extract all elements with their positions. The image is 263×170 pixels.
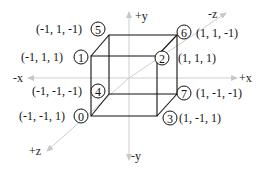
vertex-1-index: 1 [78, 51, 84, 65]
vertex-5: 5 (-1, 1, -1) [36, 22, 105, 37]
axis-label-neg-x: -x [13, 71, 23, 85]
vertex-2-coord: (1, 1, 1) [178, 51, 216, 65]
axis-label-neg-z: -z [208, 7, 217, 21]
vertex-5-index: 5 [95, 23, 101, 37]
vertex-1-coord: (-1, 1, 1) [21, 50, 63, 64]
vertex-3-index: 3 [167, 112, 173, 126]
vertex-7: 7 (1, -1, -1) [177, 86, 242, 101]
vertex-7-coord: (1, -1, -1) [196, 86, 242, 100]
vertex-4-coord: (-1, -1, -1) [32, 84, 82, 98]
vertex-3: 3 (1, -1, 1) [163, 111, 221, 126]
cube-back-face [109, 35, 177, 94]
vertex-2: 2 (1, 1, 1) [155, 51, 216, 66]
vertex-5-coord: (-1, 1, -1) [36, 22, 82, 36]
vertex-6-index: 6 [181, 26, 187, 40]
vertex-0-index: 0 [78, 110, 84, 124]
cube [91, 35, 177, 116]
vertex-2-index: 2 [159, 52, 165, 66]
vertex-7-index: 7 [181, 87, 187, 101]
vertex-3-coord: (1, -1, 1) [179, 111, 221, 125]
axis-label-neg-y: -y [131, 149, 141, 163]
vertex-6: 6 (1, 1, -1) [177, 25, 238, 40]
axis-label-pos-y: +y [135, 9, 148, 23]
vertex-4-index: 4 [95, 85, 101, 99]
axis-label-pos-x: +x [239, 71, 252, 85]
edge-1-5 [91, 35, 109, 56]
axis-label-pos-z: +z [29, 144, 41, 158]
vertex-0-coord: (-1, -1, 1) [19, 109, 65, 123]
vertex-0: 0 (-1, -1, 1) [19, 109, 88, 124]
vertex-1: 1 (-1, 1, 1) [21, 50, 88, 65]
cube-diagram: +y -y +x -x -z +z 5 (-1, 1, -1) 1 (-1, 1… [0, 0, 263, 170]
vertex-4: 4 (-1, -1, -1) [32, 84, 105, 99]
vertex-6-coord: (1, 1, -1) [196, 26, 238, 40]
